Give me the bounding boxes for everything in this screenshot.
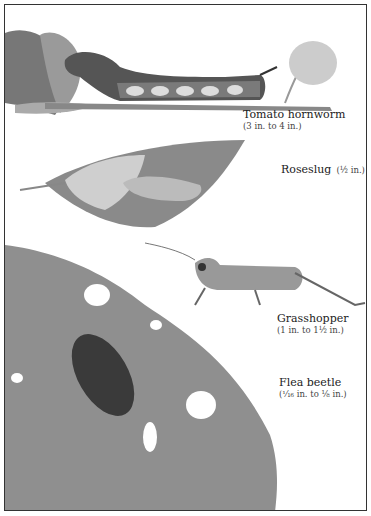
specimen-name: Tomato hornworm xyxy=(243,109,345,122)
illustration-frame: Tomato hornworm (3 in. to 4 in.) Roseslu… xyxy=(4,4,367,511)
tomato-hornworm-image xyxy=(65,52,277,101)
specimen-size: (¹⁄₁₆ in. to ⅛ in.) xyxy=(279,390,347,400)
garden-pests-illustration xyxy=(5,5,367,511)
specimen-name: Roseslug xyxy=(281,163,331,176)
specimen-size: (½ in.) xyxy=(336,165,364,175)
specimen-label-roseslug: Roseslug (½ in.) xyxy=(281,159,365,177)
specimen-label-tomato-hornworm: Tomato hornworm (3 in. to 4 in.) xyxy=(243,109,345,131)
specimen-name: Grasshopper xyxy=(277,313,348,326)
specimen-label-flea-beetle: Flea beetle (¹⁄₁₆ in. to ⅛ in.) xyxy=(279,377,347,399)
small-leaf-image xyxy=(289,41,337,85)
specimen-size: (3 in. to 4 in.) xyxy=(243,122,345,132)
grasshopper-image xyxy=(145,243,365,305)
specimen-name: Flea beetle xyxy=(279,377,347,390)
specimen-label-grasshopper: Grasshopper (1 in. to 1½ in.) xyxy=(277,313,348,335)
specimen-size: (1 in. to 1½ in.) xyxy=(277,326,348,336)
rose-leaf-image xyxy=(20,140,245,227)
